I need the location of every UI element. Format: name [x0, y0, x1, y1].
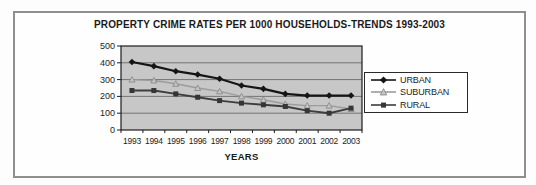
legend-label-urban: URBAN — [400, 75, 431, 85]
y-tick-label: 200 — [100, 91, 115, 101]
x-tick-label: 2003 — [342, 136, 360, 146]
x-tick-label: 1996 — [189, 136, 207, 146]
urban-series-marker-icon — [370, 75, 397, 85]
figure-frame: PROPERTY CRIME RATES PER 1000 HOUSEHOLDS… — [13, 11, 526, 178]
x-axis-title: YEARS — [121, 151, 362, 162]
y-tick-label: 500 — [100, 41, 115, 51]
legend-item-rural: RURAL — [370, 99, 467, 111]
x-tick-label: 1994 — [145, 136, 163, 146]
x-tick-label: 1993 — [123, 136, 141, 146]
legend-label-rural: RURAL — [400, 100, 430, 110]
legend-item-suburban: SUBURBAN — [370, 86, 467, 98]
y-tick-label: 400 — [100, 58, 115, 68]
x-tick-label: 1997 — [211, 136, 229, 146]
legend-label-suburban: SUBURBAN — [400, 87, 449, 97]
suburban-series-marker-icon — [370, 87, 397, 97]
x-tick-label: 2001 — [298, 136, 316, 146]
rural-series-marker-icon — [370, 100, 397, 110]
y-tick-label: 0 — [110, 125, 115, 135]
x-tick-label: 1998 — [233, 136, 251, 146]
legend: URBAN SUBURBAN RURAL — [364, 72, 468, 113]
x-axis: 1993199419951996199719981999200020012002… — [121, 130, 362, 146]
legend-item-urban: URBAN — [370, 74, 467, 86]
x-tick-label: 2000 — [276, 136, 294, 146]
y-tick-label: 100 — [100, 108, 115, 118]
x-tick-label: 1999 — [255, 136, 273, 146]
y-tick-label: 300 — [100, 75, 115, 85]
x-tick-label: 2002 — [320, 136, 338, 146]
y-axis: 0100200300400500 — [100, 41, 121, 135]
x-tick-label: 1995 — [167, 136, 185, 146]
